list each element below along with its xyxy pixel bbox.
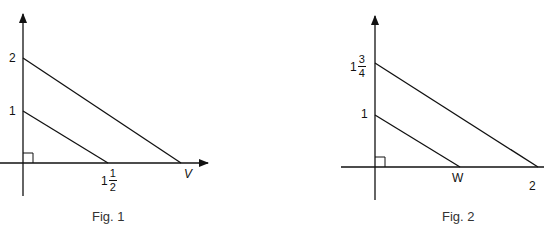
fig2-x-label-outer: 2: [529, 180, 536, 192]
fig2-y-label-upper-num: 3: [358, 54, 366, 67]
fig1-x-label-inner-whole: 1: [101, 174, 108, 188]
fig2-lower-line: [375, 115, 460, 167]
fig2-right-angle-mark: [375, 157, 385, 167]
fig2-caption: Fig. 2: [442, 209, 475, 224]
fig1-x-label-inner-den: 2: [110, 181, 116, 193]
fig1-x-label-inner-fraction: 1 2: [109, 168, 117, 193]
fig1-y-label-upper: 2: [9, 52, 16, 64]
figure-2: [341, 16, 544, 200]
fig2-upper-line: [375, 63, 538, 167]
fig1-lower-line: [23, 111, 108, 163]
figures-canvas: [0, 0, 544, 232]
fig1-upper-line: [23, 58, 181, 163]
fig1-y-label-lower: 1: [9, 105, 16, 117]
fig1-x-label-inner: 1 1 2: [101, 168, 117, 193]
fig2-y-label-upper-fraction: 3 4: [358, 54, 366, 79]
fig2-y-label-lower: 1: [361, 108, 368, 120]
fig1-x-label-outer: V: [184, 168, 192, 180]
fig1-right-angle-mark: [23, 153, 33, 163]
fig2-x-label-inner: W: [452, 172, 463, 184]
fig2-y-label-upper-whole: 1: [350, 60, 357, 74]
fig1-x-label-inner-num: 1: [109, 168, 117, 181]
fig1-caption: Fig. 1: [92, 209, 125, 224]
fig2-y-label-upper: 1 3 4: [350, 54, 366, 79]
fig2-y-label-upper-den: 4: [359, 67, 365, 79]
